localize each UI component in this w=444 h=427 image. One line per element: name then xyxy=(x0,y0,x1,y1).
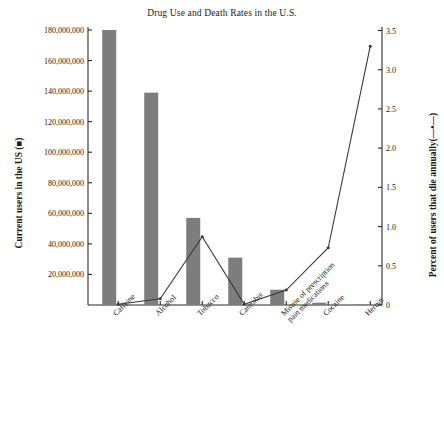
line-marker xyxy=(117,303,120,306)
bar xyxy=(102,30,116,305)
bar xyxy=(312,303,326,305)
line-marker xyxy=(243,303,246,306)
line-marker xyxy=(201,235,204,238)
bar xyxy=(186,218,200,305)
bar xyxy=(354,304,368,305)
line-marker xyxy=(327,246,330,249)
bar-series xyxy=(102,30,368,305)
chart-figure: Drug Use and Death Rates in the U.S. Cur… xyxy=(0,0,444,427)
bar xyxy=(144,93,158,305)
line-marker xyxy=(159,297,162,300)
line-marker xyxy=(369,45,372,48)
plot-area xyxy=(0,0,444,427)
line-marker xyxy=(285,289,288,292)
